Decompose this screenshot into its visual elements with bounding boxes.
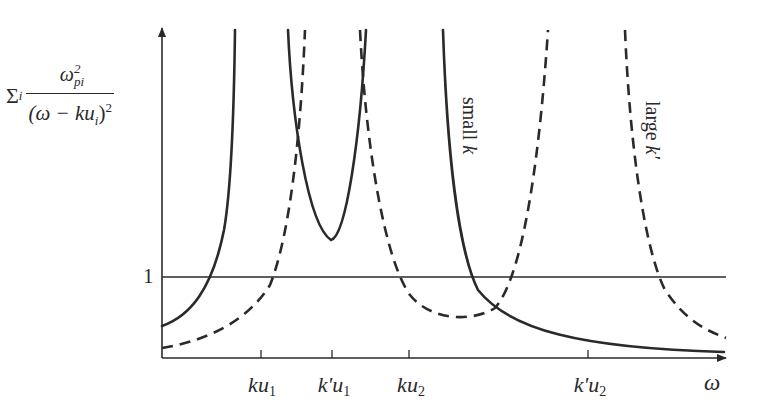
fraction-numerator: ωpi2 — [56, 58, 85, 93]
numerator-subscript: pi — [74, 74, 84, 89]
tick-label-sub: 1 — [343, 384, 350, 399]
tick-label-sub: 2 — [418, 384, 425, 399]
denominator-text: (ω − ku — [28, 101, 94, 125]
unity-label: 1 — [143, 264, 154, 289]
tick-label-main: ku — [248, 372, 269, 397]
small-k-curve — [162, 30, 724, 352]
numerator-superscript: 2 — [74, 61, 81, 76]
curve-label-variable: k′ — [642, 146, 664, 159]
x-axis-label: ω — [704, 370, 720, 396]
tick-label-sub: 1 — [269, 384, 276, 399]
curve-label-text: large — [642, 101, 664, 146]
tick-label-main: k'u — [318, 372, 343, 397]
tick-label-main: k'u — [574, 372, 599, 397]
sigma-subscript: i — [19, 88, 23, 104]
large-k-label: large k′ — [641, 101, 664, 159]
y-axis-label: Σ i ωpi2 (ω − kui)2 — [6, 58, 114, 133]
tick-label-ku2: ku2 — [397, 372, 425, 400]
tick-label-kpu2: k'u2 — [574, 372, 606, 400]
numerator-omega: ω — [60, 63, 74, 85]
tick-label-sub: 2 — [599, 384, 606, 399]
denominator-superscript: 2 — [105, 100, 112, 115]
dispersion-diagram: Σ i ωpi2 (ω − kui)2 1 ku1 k'u1 ku2 k'u2 … — [0, 0, 764, 413]
curve-label-variable: k — [459, 145, 481, 154]
sigma-symbol: Σ — [6, 83, 19, 109]
fraction-denominator: (ω − kui)2 — [26, 93, 113, 133]
plot-canvas — [0, 0, 764, 413]
curve-label-text: small — [459, 97, 481, 145]
x-ticks — [261, 350, 588, 358]
tick-label-kpu1: k'u1 — [318, 372, 350, 400]
fraction: ωpi2 (ω − kui)2 — [26, 58, 113, 133]
tick-label-ku1: ku1 — [248, 372, 276, 400]
small-k-label: small k — [458, 97, 481, 154]
tick-label-main: ku — [397, 372, 418, 397]
